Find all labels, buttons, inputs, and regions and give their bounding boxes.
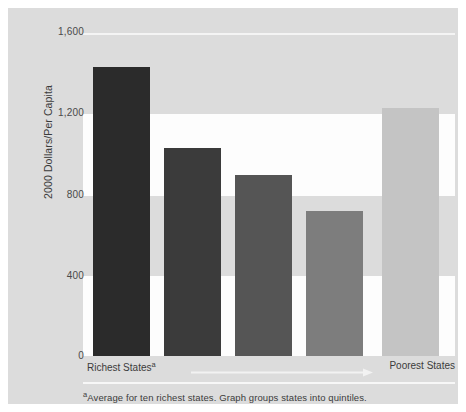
chart-plate: 1,600 1,200 800 400 0 2000 Dollars/Per C… [8, 8, 458, 404]
bar-quintile-4[interactable] [306, 211, 363, 356]
y-tick-800: 800 [24, 189, 84, 200]
chart-figure: 1,600 1,200 800 400 0 2000 Dollars/Per C… [0, 0, 466, 412]
x-label-richest-text: Richest States [87, 362, 151, 373]
bar-quintile-3[interactable] [235, 175, 292, 356]
bar-group [83, 26, 455, 356]
x-label-richest: Richest Statesa [87, 360, 156, 373]
gradient-arrow-icon [191, 368, 373, 377]
footnote-text: Average for ten richest states. Graph gr… [87, 392, 367, 403]
bar-quintile-1[interactable] [93, 67, 150, 356]
x-axis-annotations: Richest Statesa Poorest States [83, 360, 455, 382]
y-tick-400: 400 [24, 270, 84, 281]
bar-quintile-5[interactable] [382, 108, 439, 356]
bar-quintile-2[interactable] [164, 148, 221, 356]
footnote: aAverage for ten richest states. Graph g… [83, 390, 463, 403]
y-tick-1200: 1,200 [24, 107, 84, 118]
x-label-richest-superscript: a [151, 360, 155, 369]
y-tick-1600: 1,600 [24, 26, 84, 37]
y-axis-label: 2000 Dollars/Per Capita [42, 42, 54, 242]
y-tick-0: 0 [24, 350, 84, 361]
x-label-poorest: Poorest States [389, 360, 455, 371]
footnote-divider [83, 382, 455, 384]
